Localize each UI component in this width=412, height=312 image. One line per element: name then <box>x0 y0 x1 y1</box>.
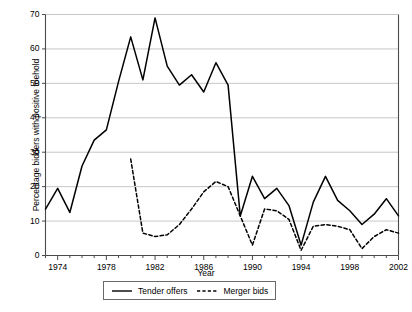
y-tick-label: 60 <box>18 43 40 53</box>
x-tick-label: 1982 <box>135 262 175 272</box>
gridlines <box>46 15 399 222</box>
x-tick-label: 1994 <box>281 262 321 272</box>
y-tick-label: 10 <box>18 216 40 226</box>
x-tick-label: 1990 <box>232 262 272 272</box>
x-tick-label: 1998 <box>330 262 370 272</box>
legend-swatch-dashed <box>196 287 218 295</box>
y-tick-label: 70 <box>18 9 40 19</box>
axis-lines <box>46 15 399 256</box>
y-tick-label: 30 <box>18 147 40 157</box>
legend-label-tender-offers: Tender offers <box>138 286 187 296</box>
chart-legend: Tender offers Merger bids <box>103 281 276 300</box>
y-tick-label: 0 <box>18 250 40 260</box>
data-series <box>46 18 399 250</box>
y-tick-label: 50 <box>18 78 40 88</box>
legend-item-tender-offers: Tender offers <box>111 286 187 296</box>
x-tick-label: 1978 <box>86 262 126 272</box>
legend-swatch-solid <box>111 287 133 295</box>
x-tick-label: 1986 <box>184 262 224 272</box>
y-tick-label: 20 <box>18 181 40 191</box>
x-tick-label: 1974 <box>38 262 78 272</box>
x-tick-label: 2002 <box>379 262 412 272</box>
legend-label-merger-bids: Merger bids <box>223 286 268 296</box>
chart-figure: Percentage bidders with positive toehold… <box>0 0 412 312</box>
y-tick-label: 40 <box>18 112 40 122</box>
legend-item-merger-bids: Merger bids <box>196 286 268 296</box>
tick-marks <box>42 15 399 261</box>
